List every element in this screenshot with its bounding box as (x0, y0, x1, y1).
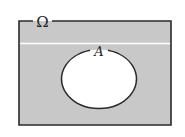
universe-label: Ω (36, 13, 48, 31)
universe-shaded-region (19, 21, 171, 125)
set-a-label: A (93, 44, 103, 59)
venn-diagram: Ω A (0, 0, 185, 137)
